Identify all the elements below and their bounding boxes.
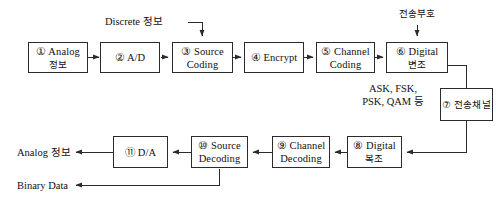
block-da-converter[interactable]: ⑪ D/A xyxy=(113,136,168,168)
block-source-decoding[interactable]: ⑩ Source Decoding xyxy=(191,136,248,168)
block-label-line1: ⑪ D/A xyxy=(125,146,156,159)
block-label-line2: Decoding xyxy=(199,152,241,165)
block-encrypt[interactable]: ④ Encrypt xyxy=(244,42,304,73)
block-label-line1: ① Analog xyxy=(36,45,80,58)
label-analog-output: Analog 정보 xyxy=(17,146,71,159)
block-digital-demodulation[interactable]: ⑧ Digital 복조 xyxy=(347,136,402,168)
block-label-line1: ⑧ Digital xyxy=(353,139,396,152)
block-digital-modulation[interactable]: ⑥ Digital 변조 xyxy=(386,42,448,73)
block-label-line1: ⑨ Channel xyxy=(277,139,326,152)
block-label-line2: Coding xyxy=(330,58,362,71)
label-discrete-input: Discrete 정보 xyxy=(105,15,163,28)
block-label-line2: Coding xyxy=(187,58,219,71)
block-label-line1: ⑦ 전송채널 xyxy=(442,98,490,111)
block-analog-source[interactable]: ① Analog 정보 xyxy=(28,42,88,73)
block-label-line1: ⑩ Source xyxy=(198,139,241,152)
block-label-line2: 정보 xyxy=(49,58,67,71)
block-channel-coding[interactable]: ⑤ Channel Coding xyxy=(316,42,375,73)
block-label-line1: ③ Source xyxy=(181,45,224,58)
block-ad-converter[interactable]: ② A/D xyxy=(100,42,160,73)
block-label-line2: Decoding xyxy=(280,152,322,165)
label-modulation-types: ASK, FSK, PSK, QAM 등 xyxy=(349,82,437,108)
block-transmission-channel[interactable]: ⑦ 전송채널 xyxy=(440,88,493,121)
block-channel-decoding[interactable]: ⑨ Channel Decoding xyxy=(272,136,330,168)
block-label-line1: ⑤ Channel xyxy=(321,45,370,58)
block-source-coding[interactable]: ③ Source Coding xyxy=(172,42,233,73)
block-label-line2: 복조 xyxy=(365,152,383,165)
block-label-line1: ④ Encrypt xyxy=(251,51,298,64)
label-binary-output: Binary Data xyxy=(17,179,68,192)
block-label-line2: 변조 xyxy=(408,58,426,71)
label-transmission-code: 전송부호 xyxy=(392,7,442,20)
block-label-line1: ⑥ Digital xyxy=(396,45,439,58)
diagram-canvas: ① Analog 정보 ② A/D ③ Source Coding ④ Encr… xyxy=(0,0,496,199)
block-label-line1: ② A/D xyxy=(115,51,146,64)
